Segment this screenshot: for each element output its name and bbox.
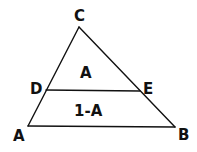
- triangle-diagram: C D E A B A 1-A: [0, 0, 197, 152]
- side-ab: [28, 126, 175, 127]
- side-ca: [28, 27, 79, 126]
- vertex-label-e: E: [143, 80, 153, 98]
- vertex-label-a: A: [13, 127, 25, 145]
- region-label-lower: 1-A: [74, 102, 103, 120]
- region-label-upper: A: [80, 64, 92, 82]
- vertex-label-c: C: [74, 7, 85, 25]
- vertex-label-b: B: [178, 126, 189, 144]
- vertex-label-d: D: [30, 80, 42, 98]
- segment-de: [46, 90, 140, 91]
